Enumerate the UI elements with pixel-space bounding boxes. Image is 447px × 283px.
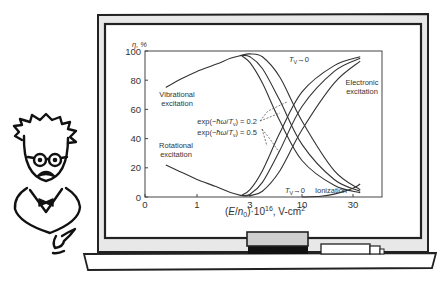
eraser-icon (247, 232, 308, 254)
label-rotational-2: excitation (160, 150, 192, 159)
chalk-icon (321, 244, 384, 254)
label-exp-0-2: exp(−ħω/Tv) = 0.2 (197, 117, 257, 127)
label-electronic-2: excitation (346, 87, 378, 96)
label-vibrational-2: excitation (161, 99, 193, 108)
label-rotational: Rotational (159, 141, 193, 150)
label-electronic: Electronic (346, 78, 379, 87)
x-tick-label: 0 (142, 199, 147, 210)
y-tick-label: 0 (136, 192, 141, 203)
y-tick-label: 40 (130, 133, 141, 144)
chalk-tray (84, 253, 436, 270)
x-tick-label: 1 (194, 199, 199, 210)
y-axis-label: η, % (132, 40, 147, 49)
label-vibrational: Vibrational (159, 90, 195, 99)
professor-avatar-icon (14, 114, 80, 253)
blackboard-illustration: 020406080100 0131030 η, % (E/n0)·1016, V… (0, 0, 447, 283)
x-tick-label: 30 (348, 199, 359, 210)
label-ionization: Ionization (315, 186, 347, 195)
label-exp-0-5: exp(−ħω/Tv) = 0.5 (197, 128, 257, 138)
y-tick-label: 60 (130, 104, 141, 115)
y-tick-label: 20 (130, 162, 141, 173)
y-tick-label: 80 (130, 75, 141, 86)
label-tv-zero-bottom: TV→0 (285, 186, 305, 196)
label-tv-zero-top: TV→0 (289, 55, 309, 65)
